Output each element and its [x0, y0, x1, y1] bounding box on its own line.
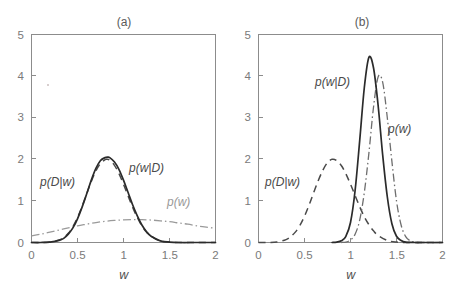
panel-a-prior-curve [32, 220, 216, 236]
panel-a-xtick-4: 2 [212, 249, 218, 261]
panel-b-xtick-0: 0 [255, 249, 261, 261]
panel-b-likelihood-curve [259, 159, 443, 242]
panel-a-y-tickmarks [32, 35, 37, 243]
panel-a-xaxis-label: w [119, 268, 129, 282]
scan-artifact [47, 84, 49, 86]
panel-b-ytick-3: 3 [245, 111, 251, 123]
chart-panel-a: (a) 0 1 2 [0, 0, 234, 290]
panel-a-axes-frame [32, 35, 216, 243]
panel-b-y-tickmarks [259, 35, 264, 243]
panel-b-ytick-4: 4 [245, 70, 252, 82]
panel-a-likelihood-label: p(D|w) [39, 175, 75, 189]
panel-b-xtick-1: 0.5 [297, 249, 313, 261]
panel-a-xtick-1: 0.5 [70, 249, 86, 261]
panel-b-title: (b) [355, 15, 370, 29]
panel-a-xtick-0: 0 [28, 249, 34, 261]
panel-b-xaxis-label: w [346, 268, 356, 282]
panel-b-prior-curve [341, 75, 442, 243]
panel-b-axes-frame [259, 35, 443, 243]
panel-b-prior-label: p(w) [387, 122, 411, 136]
panel-a-xtick-3: 1.5 [162, 249, 178, 261]
panel-a-ytick-4: 4 [18, 70, 25, 82]
panel-b-ytick-0: 0 [245, 237, 251, 249]
panel-a-ytick-2: 2 [18, 153, 24, 165]
panel-b-svg: (b) 0 1 2 3 4 5 [233, 0, 467, 290]
figure-container: (a) 0 1 2 [0, 0, 467, 290]
panel-a-ytick-5: 5 [18, 29, 24, 41]
panel-a-ytick-3: 3 [18, 111, 24, 123]
panel-b-posterior-label: p(w|D) [314, 75, 350, 89]
panel-a-xtick-2: 1 [120, 249, 126, 261]
panel-a-svg: (a) 0 1 2 [0, 0, 234, 290]
panel-b-ytick-5: 5 [245, 29, 251, 41]
panel-a-prior-label: p(w) [166, 195, 190, 209]
chart-panel-b: (b) 0 1 2 3 4 5 [233, 0, 467, 290]
panel-b-likelihood-label: p(D|w) [264, 175, 300, 189]
panel-b-xtick-3: 1.5 [389, 249, 405, 261]
panel-b-xtick-2: 1 [347, 249, 353, 261]
panel-a-posterior-label: p(w|D) [128, 161, 164, 175]
panel-b-xtick-4: 2 [439, 249, 445, 261]
panel-b-ytick-1: 1 [245, 195, 251, 207]
panel-a-title: (a) [117, 15, 132, 29]
panel-b-ytick-2: 2 [245, 153, 251, 165]
panel-a-ytick-1: 1 [18, 195, 24, 207]
panel-a-ytick-0: 0 [18, 237, 24, 249]
